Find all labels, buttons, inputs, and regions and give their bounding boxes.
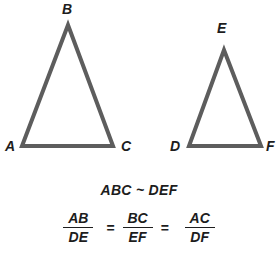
- vertex-label-f: F: [266, 139, 275, 153]
- fraction-bc-ef: BC EF: [123, 210, 153, 245]
- fraction-ac-df-numerator: AC: [188, 210, 212, 227]
- fraction-ac-df-denominator: DF: [188, 228, 211, 245]
- vertex-label-c: C: [121, 139, 131, 153]
- similar-triangles-figure: B C A E F D ABC ~ DEF AB DE = BC EF = AC…: [0, 0, 278, 260]
- similarity-statement: ABC ~ DEF: [0, 182, 278, 198]
- vertex-label-d: D: [170, 139, 180, 153]
- equals-sign-first: =: [106, 220, 114, 236]
- proportion-equation: AB DE = BC EF = AC DF: [0, 210, 278, 245]
- fraction-bc-ef-denominator: EF: [127, 228, 149, 245]
- fraction-ab-de: AB DE: [63, 210, 93, 245]
- equals-sign-second: =: [161, 220, 169, 236]
- vertex-label-e: E: [217, 21, 226, 35]
- fraction-ab-de-numerator: AB: [66, 210, 90, 227]
- fraction-ac-df: AC DF: [185, 210, 215, 245]
- triangle-abc-shape: [22, 25, 113, 146]
- fraction-bc-ef-numerator: BC: [125, 210, 149, 227]
- vertex-label-a: A: [5, 139, 15, 153]
- fraction-ab-de-denominator: DE: [67, 228, 90, 245]
- vertex-label-b: B: [62, 2, 72, 16]
- triangle-def-shape: [189, 50, 261, 146]
